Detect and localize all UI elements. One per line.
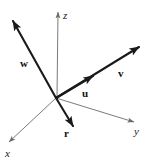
axis-label-z: z xyxy=(63,10,67,21)
axis-line-x xyxy=(9,98,56,142)
vector-label-v: v xyxy=(118,68,124,79)
vector-label-r: r xyxy=(64,128,69,139)
axis-label-y: y xyxy=(134,126,139,137)
vector-label-u: u xyxy=(82,88,88,99)
axis-line-z xyxy=(57,12,58,97)
vector-label-w: w xyxy=(20,58,28,69)
diagram-canvas xyxy=(0,0,150,166)
axis-label-x: x xyxy=(5,148,10,159)
vector-diagram-figure: z y x w v u r xyxy=(0,0,150,166)
